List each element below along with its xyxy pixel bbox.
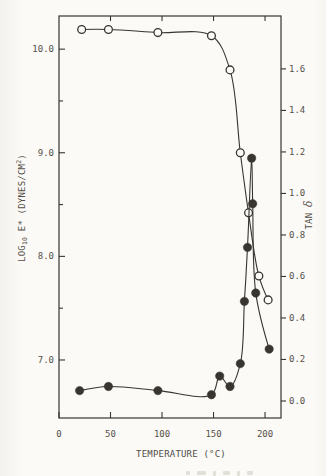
caption-fragment [213, 471, 216, 476]
caption-fragment [247, 471, 253, 475]
x-tick-label: 150 [205, 429, 221, 439]
filled-circle-marker [248, 200, 256, 208]
y-right-tick-label: 0.6 [289, 271, 305, 281]
open-circle-marker [255, 272, 263, 280]
left-axis-title-close: ) [17, 154, 27, 160]
left-axis-title-mid: E* (DYNES/CM [17, 164, 27, 237]
open-circle-marker [154, 29, 162, 37]
right-axis-title-text: TAN [304, 207, 314, 229]
y-left-tick-label: 8.0 [38, 251, 54, 261]
x-tick-label: 50 [105, 429, 116, 439]
left-axis-title-superscript: 2 [15, 160, 23, 164]
cropped-caption-marks [186, 471, 282, 476]
y-left-tick-label: 9.0 [38, 148, 54, 158]
x-tick-label: 200 [257, 429, 273, 439]
open-circle-marker [236, 149, 244, 157]
open-circle-marker [264, 296, 272, 304]
caption-fragment [186, 471, 190, 475]
y-right-tick-label: 1.4 [289, 105, 305, 115]
filled-circle-marker [104, 382, 112, 390]
filled-circle-marker [75, 386, 83, 394]
open-circle-marker [105, 26, 113, 34]
filled-circle-marker [236, 359, 244, 367]
filled-circle-marker [154, 386, 162, 394]
caption-fragment [197, 471, 206, 475]
filled-circle-marker [226, 382, 234, 390]
filled-circle-marker [265, 345, 273, 353]
filled-circle-marker [252, 289, 260, 297]
plot-svg: 05010015020010.09.08.07.01.61.41.21.00.8… [0, 0, 326, 476]
filled-circle-marker [216, 372, 224, 380]
left-axis-title-text: LOG [17, 245, 27, 262]
y-right-tick-label: 0.4 [289, 313, 305, 323]
delta-symbol: δ [302, 200, 314, 207]
open-circle-marker [226, 66, 234, 74]
caption-fragment [223, 471, 230, 475]
open-circle-marker [208, 32, 216, 40]
y-right-tick-label: 0.2 [289, 354, 305, 364]
y-left-tick-label: 7.0 [38, 355, 54, 365]
left-axis-title: LOG10 E* (DYNES/CM2) [15, 154, 29, 262]
y-right-tick-label: 1.2 [289, 147, 305, 157]
open-circle-marker [78, 26, 86, 34]
right-axis-title: TAN δ [302, 200, 314, 229]
x-axis-title: TEMPERATURE (°C) [136, 449, 226, 459]
filled-circle-marker [240, 297, 248, 305]
x-tick-label: 0 [56, 429, 61, 439]
filled-circle-marker [247, 154, 255, 162]
y-right-tick-label: 1.6 [289, 64, 305, 74]
left-axis-title-subscript: 10 [21, 237, 29, 245]
scanned-figure-page: { "ink_color": "#38342f", "text_color": … [0, 0, 326, 476]
y-left-tick-label: 10.0 [32, 44, 54, 54]
filled-circle-marker [207, 391, 215, 399]
caption-fragment [237, 471, 240, 476]
y-right-tick-label: 1.0 [289, 188, 305, 198]
series-curve-open-circle [82, 29, 268, 300]
filled-circle-marker [243, 243, 251, 251]
y-right-tick-label: 0.8 [289, 230, 305, 240]
y-right-tick-label: 0.0 [289, 396, 305, 406]
x-tick-label: 100 [154, 429, 170, 439]
